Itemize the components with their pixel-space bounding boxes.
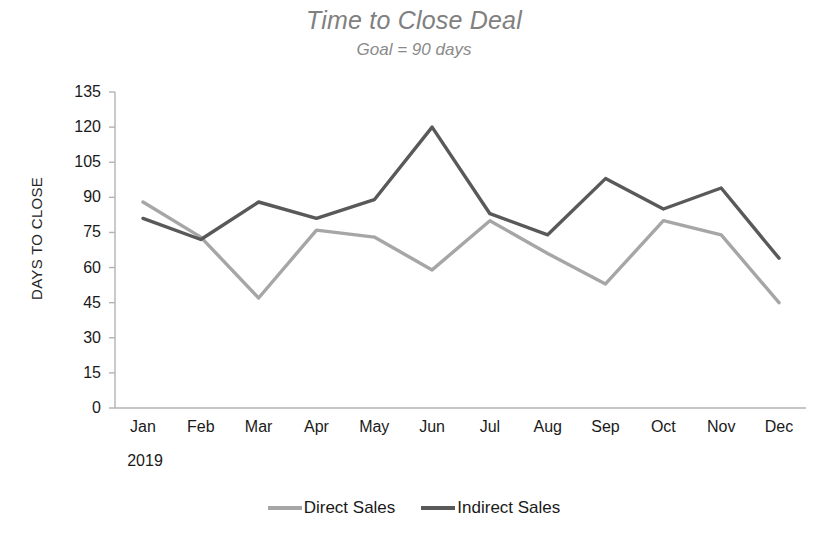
chart-container: Time to Close Deal Goal = 90 days DAYS T…: [0, 0, 828, 544]
legend-line-swatch: [268, 506, 302, 510]
y-axis-tick-label: 75: [57, 224, 101, 240]
chart-legend: Direct SalesIndirect Sales: [0, 498, 828, 518]
series-line: [143, 127, 779, 258]
y-axis-tick-label: 60: [57, 260, 101, 276]
y-axis-tick-label: 45: [57, 295, 101, 311]
y-axis-tick-label: 30: [57, 330, 101, 346]
data-series-lines: [143, 127, 779, 303]
axis-lines: [115, 92, 806, 408]
legend-item[interactable]: Indirect Sales: [421, 498, 560, 518]
y-axis-tick-label: 120: [57, 119, 101, 135]
y-axis-tick-label: 15: [57, 365, 101, 381]
y-axis-tick-label: 105: [57, 154, 101, 170]
legend-label: Indirect Sales: [457, 498, 560, 518]
legend-line-swatch: [421, 506, 455, 510]
y-axis-tick-label: 90: [57, 189, 101, 205]
y-axis-tick-label: 135: [57, 84, 101, 100]
legend-item[interactable]: Direct Sales: [268, 498, 396, 518]
legend-label: Direct Sales: [304, 498, 396, 518]
y-axis-ticks: [109, 92, 115, 408]
x-axis-tick-label: Dec: [744, 418, 814, 436]
y-axis-tick-label: 0: [57, 400, 101, 416]
x-axis-year-label: 2019: [110, 452, 180, 470]
